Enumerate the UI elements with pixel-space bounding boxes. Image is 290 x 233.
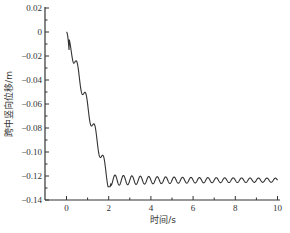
x-tick-label: 4 — [149, 203, 154, 213]
x-axis-title: 时间/s — [150, 214, 176, 225]
x-tick-label: 10 — [273, 203, 283, 213]
y-tick-label: −0.04 — [21, 75, 42, 85]
x-tick-label: 8 — [233, 203, 238, 213]
y-tick-label: −0.10 — [21, 147, 42, 157]
y-axis-title: 跨中竖向位移/m — [3, 71, 14, 137]
x-tick-label: 0 — [64, 203, 69, 213]
y-tick-label: 0 — [38, 27, 43, 37]
x-tick-label: 2 — [106, 203, 111, 213]
y-tick-label: −0.06 — [21, 99, 42, 109]
y-tick-label: −0.08 — [21, 123, 42, 133]
displacement-curve — [67, 32, 278, 187]
axes — [45, 7, 280, 200]
x-tick-label: 6 — [191, 203, 196, 213]
y-tick-label: −0.14 — [21, 195, 42, 205]
y-tick-label: −0.02 — [21, 51, 42, 61]
y-tick-label: −0.12 — [21, 171, 42, 181]
y-tick-label: 0.02 — [26, 3, 42, 13]
line-chart: 0.020−0.02−0.04−0.06−0.08−0.10−0.12−0.14… — [0, 0, 290, 233]
